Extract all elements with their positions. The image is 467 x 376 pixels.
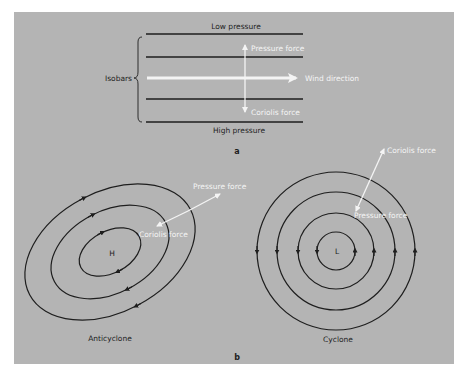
panel-a: Low pressure Isobars Wind direction Pres… — [105, 22, 359, 156]
isobars-label: Isobars — [105, 74, 132, 83]
anticyclone-diagram: H Pressure force Coriolis force Anticycl… — [1, 156, 246, 347]
coriolis-force-label: Coriolis force — [251, 108, 300, 117]
wind-direction-label: Wind direction — [305, 74, 359, 83]
high-center-label: H — [109, 249, 115, 258]
panel-b-tag: b — [234, 353, 240, 362]
cyclone-coriolis-force-label: Coriolis force — [387, 146, 436, 155]
cyclone-caption: Cyclone — [323, 335, 353, 344]
anticyclone-caption: Anticyclone — [88, 334, 132, 343]
anticyclone-flow-arrow — [79, 198, 84, 201]
anticyclone-pressure-force-label: Pressure force — [193, 182, 247, 191]
isobars-bracket — [134, 37, 142, 122]
cyclone-pressure-force-label: Pressure force — [354, 211, 408, 220]
anticyclone-coriolis-arrow — [157, 211, 188, 226]
anticyclone-flow-arrow — [97, 232, 102, 235]
panel-a-tag: a — [234, 147, 239, 156]
diagram-svg: Low pressure Isobars Wind direction Pres… — [0, 0, 467, 376]
anticyclone-flow-arrow — [117, 269, 122, 272]
low-center-label: L — [335, 247, 340, 256]
anticyclone-pressure-arrow — [188, 194, 220, 211]
cyclone-coriolis-arrow — [370, 149, 384, 180]
high-pressure-label: High pressure — [213, 126, 265, 135]
pressure-force-label: Pressure force — [251, 44, 305, 53]
low-pressure-label: Low pressure — [211, 22, 261, 31]
anticyclone-coriolis-force-label: Coriolis force — [139, 230, 188, 239]
cyclone-diagram: L Coriolis force Pressure force Cyclone — [257, 146, 436, 344]
anticyclone-flow-arrow — [136, 304, 141, 307]
anticyclone-flow-arrow — [88, 214, 93, 217]
anticyclone-flow-arrow — [127, 287, 132, 290]
cyclone-pressure-arrow — [356, 180, 370, 211]
